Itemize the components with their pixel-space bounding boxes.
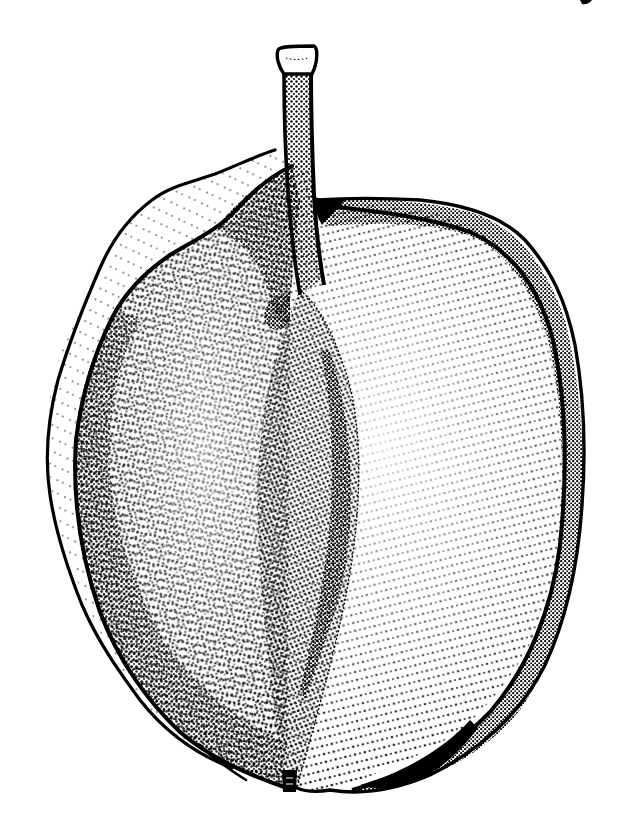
botanical-illustration: Stipple illustration of a winged seed (s… [0, 0, 626, 839]
corner-mark [580, 0, 592, 4]
base-tip [282, 770, 297, 792]
stalk-cap [277, 46, 317, 74]
